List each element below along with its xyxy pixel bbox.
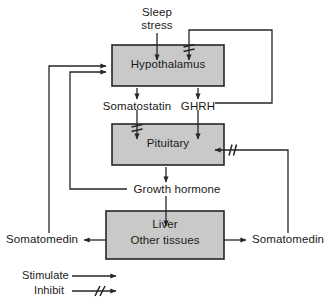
liver-label-line2: Other tissues — [130, 234, 199, 246]
ghrh-label: GHRH — [181, 100, 215, 112]
somatomedin-right-label: Somatomedin — [252, 233, 324, 245]
edge-somatomedin-right-pituitary — [215, 150, 288, 233]
hypothalamus-label: Hypothalamus — [131, 58, 206, 70]
sleep-stress-label-line2: stress — [141, 19, 172, 31]
pituitary-label: Pituitary — [147, 137, 189, 149]
sleep-stress-label-line1: Sleep — [142, 6, 172, 18]
liver-label-line1: Liver — [152, 218, 177, 230]
growth-hormone-label: Growth hormone — [133, 183, 220, 195]
legend-inhibit-label: Inhibit — [34, 284, 64, 296]
diagram-vector-layer — [0, 0, 335, 303]
somatostatin-label: Somatostatin — [103, 100, 171, 112]
diagram-canvas: Sleep stress Hypothalamus Somatostatin G… — [0, 0, 335, 303]
edge-somatomedin-left-hypothalamus — [49, 66, 106, 233]
legend-stimulate-label: Stimulate — [22, 269, 69, 281]
somatomedin-left-label: Somatomedin — [6, 233, 78, 245]
